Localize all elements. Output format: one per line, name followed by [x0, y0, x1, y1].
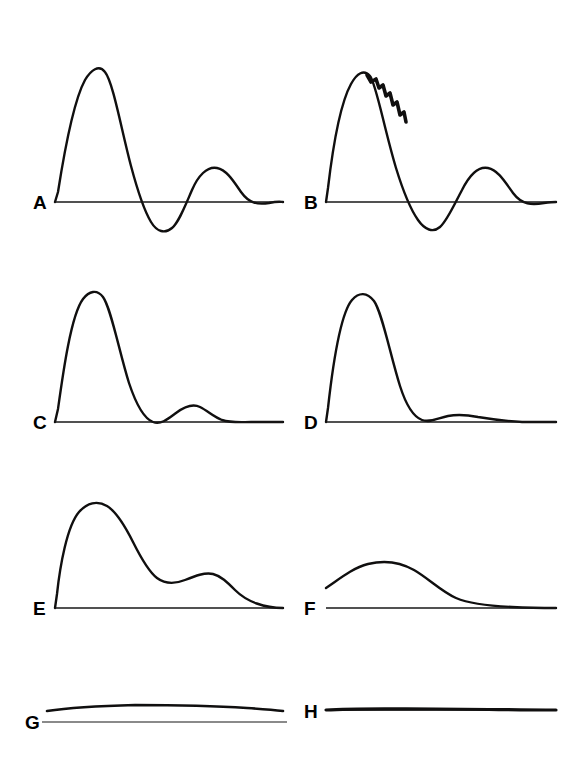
- panel-label-h: H: [304, 702, 318, 721]
- panel-h-trace: [326, 709, 556, 710]
- panel-b-plot: [326, 42, 560, 282]
- panel-g-trace: [47, 705, 283, 711]
- panel-label-f: F: [304, 599, 316, 618]
- panel-label-e: E: [33, 599, 46, 618]
- panel-d-trace: [326, 294, 556, 422]
- panel-b-trace: [326, 73, 556, 231]
- panel-label-b: B: [304, 193, 318, 212]
- panel-g: [47, 705, 287, 735]
- panel-h-plot: [326, 708, 560, 734]
- panel-f-trace: [326, 562, 556, 608]
- panel-label-a: A: [33, 193, 47, 212]
- panel-a: [55, 42, 287, 282]
- panel-h: [326, 708, 560, 734]
- panel-a-plot: [55, 42, 287, 282]
- panel-label-d: D: [304, 413, 318, 432]
- panel-b: [326, 42, 560, 282]
- panel-d: [326, 272, 560, 442]
- panel-c: [55, 267, 287, 437]
- panel-f-plot: [326, 558, 560, 628]
- panel-label-g: G: [25, 713, 40, 732]
- panel-label-c: C: [33, 413, 47, 432]
- panel-c-trace: [55, 292, 283, 423]
- panel-e-plot: [55, 480, 287, 625]
- panel-a-trace: [55, 68, 283, 231]
- panel-c-plot: [55, 267, 287, 437]
- panel-g-plot: [47, 705, 287, 735]
- panel-f: [326, 558, 560, 628]
- panel-b-serration: [367, 75, 406, 122]
- panel-e: [55, 480, 287, 625]
- panel-e-trace: [55, 503, 283, 608]
- figure-sheet: A B C D E F: [0, 0, 588, 780]
- panel-d-plot: [326, 272, 560, 442]
